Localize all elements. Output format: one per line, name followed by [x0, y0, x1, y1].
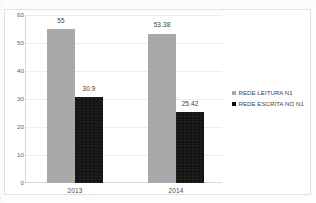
- bar-2013-rede-leitura-n1[interactable]: [47, 29, 75, 183]
- bar-value-label-2013-escrita: 30.9: [69, 86, 109, 92]
- square-black-marker-icon: [232, 102, 236, 106]
- bar-2014-rede-leitura-n1[interactable]: [148, 34, 176, 184]
- legend-label-rede-escrita-no-n1: REDE ESCRITA NO N1: [239, 101, 304, 107]
- legend-label-rede-leitura-n1: REDE LEITURA N1: [239, 90, 293, 96]
- y-tick-label-30: 30: [6, 96, 24, 102]
- y-tick-label-40: 40: [6, 68, 24, 74]
- y-tick-label-50: 50: [6, 40, 24, 46]
- bar-value-label-2014-escrita: 25.42: [170, 101, 210, 107]
- chart-legend: REDE LEITURA N1 REDE ESCRITA NO N1: [232, 90, 312, 112]
- bar-value-label-2014-leitura: 53.38: [142, 22, 182, 28]
- y-tick-label-60: 60: [6, 12, 24, 18]
- y-tick-label-0: 0: [6, 180, 24, 186]
- x-tick-label-2014: 2014: [156, 188, 196, 194]
- legend-item-rede-leitura-n1[interactable]: REDE LEITURA N1: [232, 90, 312, 96]
- gridline-60: [26, 15, 222, 16]
- bar-2014-rede-escrita-no-n1[interactable]: [176, 112, 204, 183]
- y-tick-label-10: 10: [6, 152, 24, 158]
- chart-screenshot: 60 50 40 30 20 10 0 55 30.9 53.38 25.42 …: [0, 0, 316, 203]
- legend-item-rede-escrita-no-n1[interactable]: REDE ESCRITA NO N1: [232, 101, 312, 107]
- plot-area: [26, 15, 222, 183]
- x-tick-label-2013: 2013: [55, 188, 95, 194]
- square-gray-marker-icon: [232, 91, 236, 95]
- bar-value-label-2013-leitura: 55: [41, 18, 81, 24]
- y-tick-label-20: 20: [6, 124, 24, 130]
- bar-2013-rede-escrita-no-n1[interactable]: [75, 97, 103, 184]
